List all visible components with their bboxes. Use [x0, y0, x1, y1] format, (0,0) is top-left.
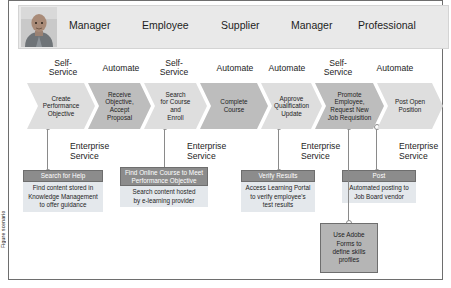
process-step-label-2: Searchfor CourseandEnroll — [150, 91, 202, 121]
process-step-3[interactable]: CompleteCourse — [200, 83, 268, 129]
mode-label-0: Self-Service — [37, 59, 89, 78]
connector-line-0 — [47, 127, 48, 172]
mode-label-3: Automate — [209, 64, 261, 73]
role-label-0: Manager — [69, 19, 110, 31]
process-step-2[interactable]: Searchfor CourseandEnroll — [144, 83, 207, 129]
process-step-5[interactable]: PromoteEmployee,Request NewJob Requisiti… — [315, 83, 384, 129]
process-step-label-6: Post OpenPosition — [384, 98, 436, 113]
process-step-4[interactable]: ApproveQualificationUpdate — [261, 83, 322, 129]
left-caption-strip: Figure scenario — [0, 128, 7, 248]
process-step-label-3: CompleteCourse — [209, 98, 258, 113]
service-description-0: Find content stored inKnowledge Manageme… — [23, 182, 103, 212]
service-title-2[interactable]: Verify Results — [241, 170, 315, 182]
mode-label-2: Self-Service — [148, 59, 200, 78]
role-label-1: Employee — [142, 19, 189, 31]
connector-line-1 — [164, 127, 165, 172]
process-step-label-4: ApproveQualificationUpdate — [263, 95, 320, 118]
service-title-1[interactable]: Find Online Course to MeetPerformance Ob… — [120, 167, 208, 186]
process-step-1[interactable]: ReceiveObjective,AcceptProposal — [88, 83, 151, 129]
adobe-connector-line — [348, 127, 349, 223]
connector-line-2 — [278, 127, 279, 172]
service-title-0[interactable]: Search for Help — [23, 170, 103, 182]
adobe-forms-box[interactable]: Use AdobeForms todefine skillsprofiles — [320, 223, 378, 273]
service-description-1: Search content hostedby e-learning provi… — [120, 186, 208, 207]
mode-label-5: Self-Service — [312, 59, 364, 78]
mode-label-6: Automate — [369, 64, 421, 73]
enterprise-service-label-0: EnterpriseService — [70, 142, 109, 161]
mode-label-4: Automate — [261, 64, 313, 73]
process-step-6[interactable]: Post OpenPosition — [377, 83, 443, 129]
diagram-frame: ManagerEmployeeSupplierManagerProfession… — [8, 0, 443, 280]
role-label-2: Supplier — [221, 19, 260, 31]
role-label-4: Professional — [358, 19, 416, 31]
service-description-2: Access Learning Portalto verify employee… — [241, 182, 315, 212]
enterprise-service-label-1: EnterpriseService — [187, 142, 226, 161]
avatar — [21, 7, 57, 47]
role-label-3: Manager — [291, 19, 332, 31]
mode-label-1: Automate — [95, 64, 147, 73]
connector-line-3 — [376, 127, 377, 172]
service-title-3[interactable]: Post — [342, 170, 416, 182]
process-step-label-0: CreatePerformanceObjective — [32, 95, 91, 118]
enterprise-service-label-2: EnterpriseService — [301, 142, 340, 161]
process-step-label-5: PromoteEmployee,Request NewJob Requisiti… — [317, 91, 383, 121]
service-description-3: Automated posting toJob Board vendor — [342, 182, 416, 203]
process-step-0[interactable]: CreatePerformanceObjective — [27, 83, 95, 129]
enterprise-service-label-3: EnterpriseService — [399, 142, 438, 161]
process-step-label-1: ReceiveObjective,AcceptProposal — [94, 91, 144, 121]
